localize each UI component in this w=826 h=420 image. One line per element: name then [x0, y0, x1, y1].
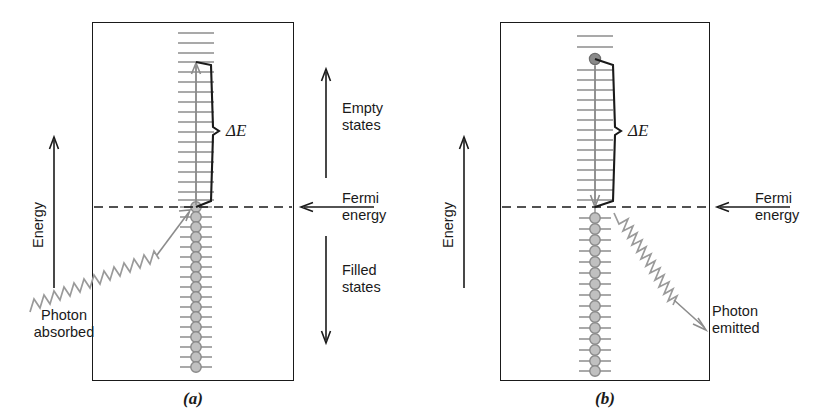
panel-b-graphics [0, 0, 826, 420]
panel-b-photon-label: Photon emitted [712, 303, 760, 336]
panel-b-delta-e-label: ΔE [628, 121, 648, 141]
figure-root: Energy ΔE Empty states Fermi energy Fill… [0, 0, 826, 420]
panel-b-energy-axis-label: Energy [440, 202, 456, 248]
panel-b-caption: (b) [575, 389, 635, 409]
panel-b-fermi-energy-label: Fermi energy [755, 190, 799, 223]
